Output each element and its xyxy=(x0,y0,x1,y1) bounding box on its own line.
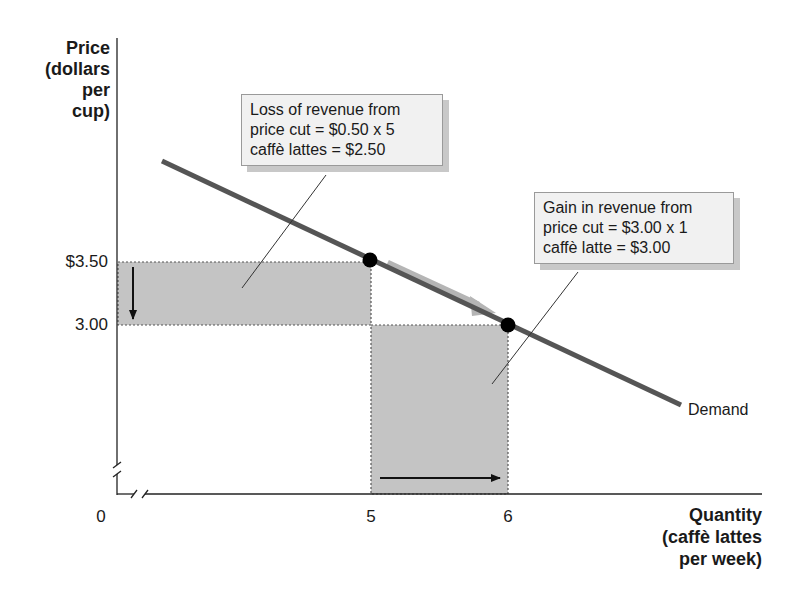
x-tick-6: 6 xyxy=(493,507,523,527)
gain-revenue-callout: Gain in revenue from price cut = $3.00 x… xyxy=(534,192,734,264)
y-tick-3-00: 3.00 xyxy=(38,315,108,335)
x-tick-5: 5 xyxy=(356,507,386,527)
callout-line: Gain in revenue from xyxy=(543,198,725,218)
demand-label: Demand xyxy=(688,401,748,419)
point-price-3-00 xyxy=(501,318,516,333)
point-price-3-50 xyxy=(363,253,378,268)
y-axis-title-line: cup) xyxy=(20,101,110,122)
x-axis-title-line: Quantity xyxy=(590,504,762,526)
x-tick-0: 0 xyxy=(86,507,116,527)
x-axis-title: Quantity (caffè lattes per week) xyxy=(590,504,762,570)
loss-revenue-callout: Loss of revenue from price cut = $0.50 x… xyxy=(241,94,443,166)
x-axis-title-line: (caffè lattes xyxy=(590,526,762,548)
callout-line: caffè lattes = $2.50 xyxy=(250,140,434,160)
callout-line: caffè latte = $3.00 xyxy=(543,238,725,258)
y-axis-title: Price (dollars per cup) xyxy=(20,38,110,122)
y-axis-title-line: per xyxy=(20,80,110,101)
callout-line: price cut = $3.00 x 1 xyxy=(543,218,725,238)
callout-line: Loss of revenue from xyxy=(250,100,434,120)
callout-line: price cut = $0.50 x 5 xyxy=(250,120,434,140)
loss-revenue-area xyxy=(118,262,371,325)
y-axis-title-line: (dollars xyxy=(20,59,110,80)
x-axis-title-line: per week) xyxy=(590,548,762,570)
y-tick-3-50: $3.50 xyxy=(38,252,108,272)
gain-revenue-area xyxy=(371,325,508,494)
y-axis-title-line: Price xyxy=(20,38,110,59)
